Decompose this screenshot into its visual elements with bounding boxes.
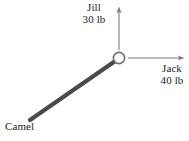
ring-icon <box>113 52 124 63</box>
camel-rope-line <box>30 62 115 121</box>
jill-label-name: Jill <box>70 2 118 14</box>
jack-label: Jack 40 lb <box>155 63 189 86</box>
jill-label: Jill 30 lb <box>70 2 118 25</box>
jill-label-force: 30 lb <box>70 14 118 26</box>
camel-label-name: Camel <box>5 121 34 133</box>
jack-label-name: Jack <box>155 63 189 75</box>
camel-label: Camel <box>5 121 34 133</box>
force-diagram-figure: Jill 30 lb Jack 40 lb Camel <box>0 0 189 141</box>
jack-label-force: 40 lb <box>155 75 189 87</box>
